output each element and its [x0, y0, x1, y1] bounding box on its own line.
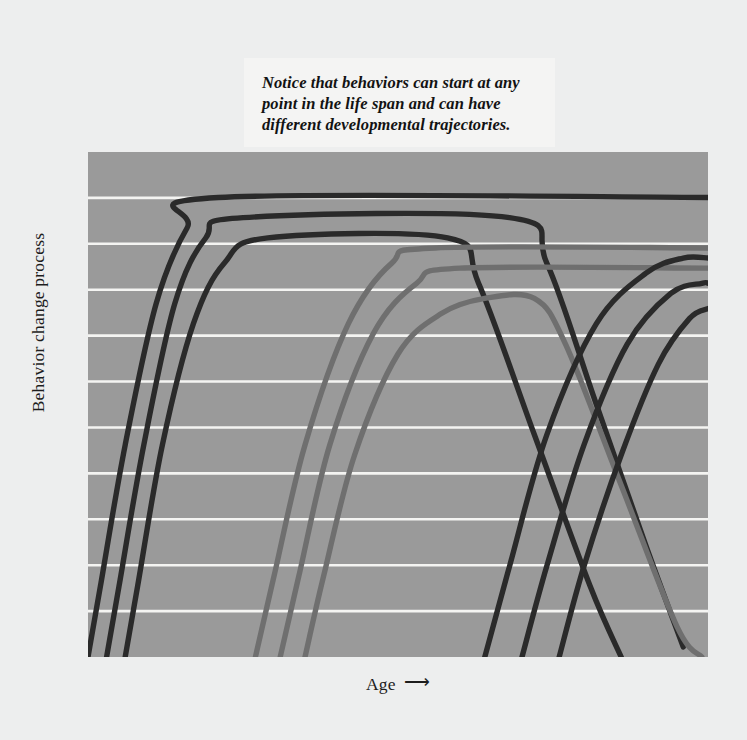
arrow-right-icon: ⟶ [404, 672, 430, 693]
figure-container: Behavior change process Age⟶ Notice that… [0, 0, 747, 740]
plot-area-background [88, 152, 708, 657]
y-axis-label: Behavior change process [28, 193, 49, 453]
annotation-callout: Notice that behaviors can start at any p… [244, 58, 555, 147]
x-axis-label-text: Age [366, 674, 396, 694]
x-axis-label: Age⟶ [88, 672, 708, 695]
